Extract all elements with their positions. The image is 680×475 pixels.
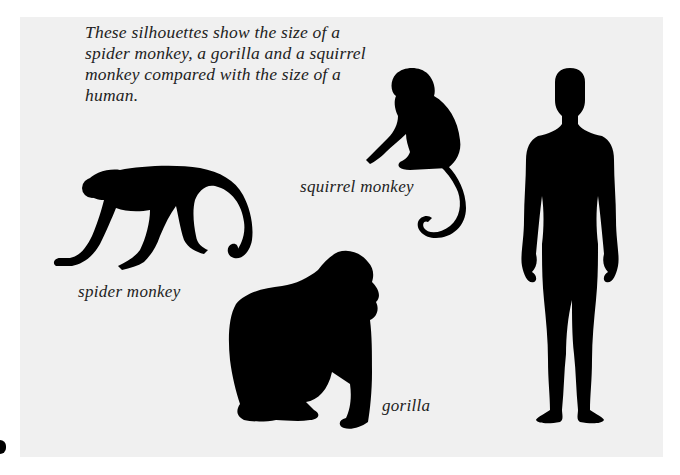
- label-squirrel-monkey: squirrel monkey: [300, 177, 414, 197]
- label-gorilla: gorilla: [382, 396, 430, 416]
- human-silhouette: [521, 68, 618, 423]
- spider-monkey-silhouette: [54, 166, 253, 270]
- silhouettes: [0, 0, 680, 475]
- label-spider-monkey: spider monkey: [78, 282, 181, 302]
- gorilla-silhouette: [229, 251, 379, 429]
- squirrel-monkey-silhouette: [366, 68, 466, 238]
